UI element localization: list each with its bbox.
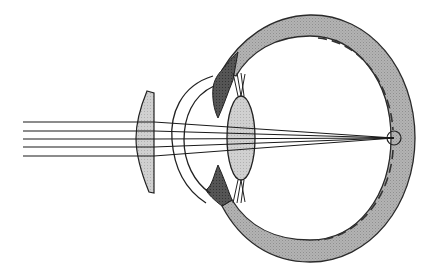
incident-light-rays bbox=[23, 122, 394, 156]
crystalline-lens bbox=[227, 96, 255, 180]
cornea-outer bbox=[172, 76, 213, 203]
corrective-convex-lens bbox=[136, 91, 154, 193]
eye-lens-diagram bbox=[0, 0, 436, 280]
cornea-inner bbox=[184, 86, 214, 193]
iris-bottom bbox=[206, 165, 232, 206]
